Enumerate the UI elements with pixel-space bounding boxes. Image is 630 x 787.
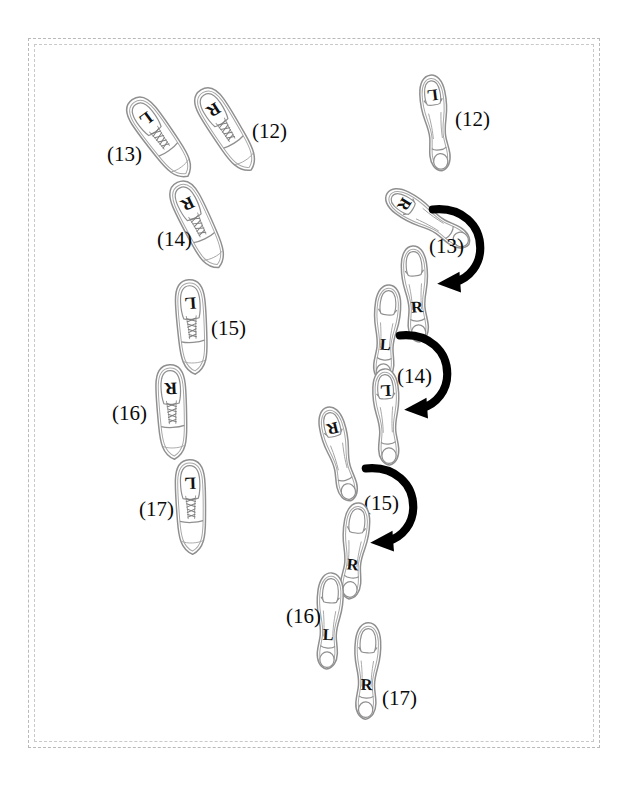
label-right-16: (16)	[286, 606, 321, 627]
foot-mark-right-14b: L	[380, 381, 392, 401]
foot-mark-left-15: L	[184, 293, 197, 313]
label-left-17: (17)	[139, 499, 174, 520]
foot-mark-left-17: L	[184, 473, 196, 492]
label-left-14: (14)	[157, 229, 192, 250]
label-left-16: (16)	[112, 403, 147, 424]
foot-mark-right-16: L	[322, 625, 334, 645]
label-right-17: (17)	[382, 688, 417, 709]
left-shoe-17: L	[169, 456, 212, 557]
label-left-12: (12)	[252, 121, 287, 142]
left-shoe-16: R	[149, 361, 194, 463]
foot-mark-right-13b: R	[410, 297, 423, 317]
foot-mark-right-17: R	[360, 675, 373, 694]
step-arrow-14	[392, 331, 458, 423]
figure-canvas: R (12) L (13) R (14) L (15) R (16) L (17…	[0, 0, 630, 787]
step-arrow-15	[358, 464, 424, 556]
label-right-12: (12)	[455, 109, 490, 130]
label-left-13: (13)	[107, 144, 142, 165]
foot-mark-right-14: L	[379, 335, 391, 355]
foot-mark-left-16: R	[164, 378, 178, 398]
step-arrow-13	[425, 205, 491, 297]
label-left-15: (15)	[211, 318, 246, 339]
